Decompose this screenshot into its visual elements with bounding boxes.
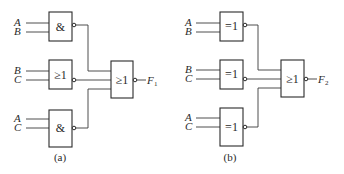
input-label: C	[14, 73, 22, 85]
circuit-b: A B =1 B C =1 A C =1	[184, 12, 329, 164]
gate-symbol: &	[56, 20, 66, 34]
circuit-a-gate-3: A C &	[13, 110, 76, 147]
inversion-bubble-icon	[72, 23, 76, 27]
inversion-bubble-icon	[304, 77, 308, 81]
circuit-a: A B & B C ≥1 A C &	[13, 12, 158, 164]
circuit-b-gate-3: A C =1	[184, 108, 247, 146]
gate-symbol: =1	[225, 120, 238, 134]
input-label: C	[185, 120, 193, 132]
input-label: C	[185, 72, 193, 84]
gate-symbol: ≥1	[54, 68, 67, 82]
connection-wire	[76, 89, 111, 128]
gate-symbol: ≥1	[116, 73, 129, 87]
circuit-b-gate-2: B C =1	[185, 60, 247, 89]
output-subscript: 1	[154, 80, 158, 88]
inversion-bubble-icon	[243, 23, 247, 27]
input-label: B	[185, 25, 192, 37]
circuit-a-output-gate: ≥1 F 1	[111, 61, 158, 98]
output-subscript: 2	[325, 79, 329, 87]
gate-symbol: &	[56, 121, 66, 135]
caption-b: (b)	[224, 151, 237, 164]
input-label: B	[14, 25, 21, 37]
connection-wire	[76, 25, 111, 71]
circuit-a-gate-1: A B &	[13, 12, 76, 41]
gate-symbol: =1	[225, 19, 238, 33]
inversion-bubble-icon	[243, 125, 247, 129]
inversion-bubble-icon	[72, 126, 76, 130]
caption-a: (a)	[54, 151, 67, 164]
circuit-b-output-gate: ≥1 F 2	[281, 60, 329, 97]
inversion-bubble-icon	[133, 78, 137, 82]
connection-wire	[247, 25, 281, 70]
output-label: F	[317, 73, 325, 85]
output-label: F	[146, 74, 154, 86]
gate-symbol: ≥1	[286, 72, 299, 86]
connection-wire	[247, 88, 281, 127]
gate-symbol: =1	[225, 67, 238, 81]
logic-circuit-figure: A B & B C ≥1 A C &	[0, 0, 344, 174]
circuit-b-gate-1: A B =1	[184, 12, 247, 41]
input-label: C	[14, 121, 22, 133]
inversion-bubble-icon	[72, 78, 76, 82]
circuit-a-gate-2: B C ≥1	[14, 60, 76, 89]
inversion-bubble-icon	[243, 77, 247, 81]
